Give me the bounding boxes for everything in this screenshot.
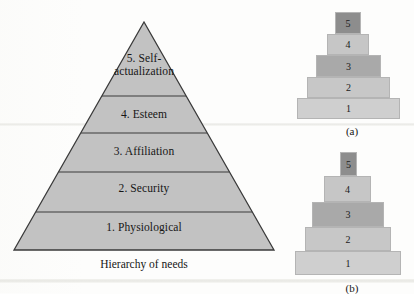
pyramid-level-1-label: 1. Physiological xyxy=(64,221,224,234)
stack-a-bar-2: 2 xyxy=(307,77,390,98)
stack-a-bar-1-label: 1 xyxy=(346,103,351,114)
pyramid-level-4-label: 4. Esteem xyxy=(64,108,224,121)
pyramid-level-2-label: 2. Security xyxy=(64,182,224,195)
stacked-bars-diagram-a: 54321(a) xyxy=(290,4,414,144)
stack-a-bar-5-label: 5 xyxy=(346,18,351,29)
stack-b-bar-5-label: 5 xyxy=(346,159,351,170)
stack-b-bar-2-label: 2 xyxy=(346,234,351,245)
stack-a-bar-3-label: 3 xyxy=(346,61,351,72)
stack-a-caption: (a) xyxy=(290,125,414,137)
pyramid-level-3-label: 3. Affiliation xyxy=(64,145,224,158)
pyramid-level-5-label-line2: actualization xyxy=(64,65,224,78)
stack-b-bar-1-label: 1 xyxy=(346,258,351,269)
stack-b-bar-3-label: 3 xyxy=(346,209,351,220)
stack-b-bar-4-label: 4 xyxy=(345,184,350,195)
stack-a-bar-4-label: 4 xyxy=(346,39,351,50)
stack-a-bar-4: 4 xyxy=(327,34,369,55)
pyramid-caption: Hierarchy of needs xyxy=(44,258,244,270)
stack-a-bar-2-label: 2 xyxy=(346,82,351,93)
stack-b-bar-1: 1 xyxy=(295,251,401,275)
stack-a-bar-3: 3 xyxy=(316,55,381,77)
stack-b-bar-2: 2 xyxy=(305,227,391,251)
stack-b-bar-5: 5 xyxy=(340,152,357,176)
stack-b-bar-4: 4 xyxy=(324,176,371,202)
stack-a-bar-1: 1 xyxy=(297,98,400,119)
hierarchy-of-needs-pyramid: 5. Self- actualization 4. Esteem 3. Affi… xyxy=(0,0,290,293)
pyramid-level-5-label-line1: 5. Self- xyxy=(64,52,224,65)
stack-a-bar-5: 5 xyxy=(335,12,361,34)
stack-b-bar-3: 3 xyxy=(312,202,384,227)
stack-b-caption: (b) xyxy=(290,282,414,294)
pyramid-level-5-label: 5. Self- actualization xyxy=(64,52,224,77)
stacked-bars-diagram-b: 54321(b) xyxy=(290,146,414,290)
